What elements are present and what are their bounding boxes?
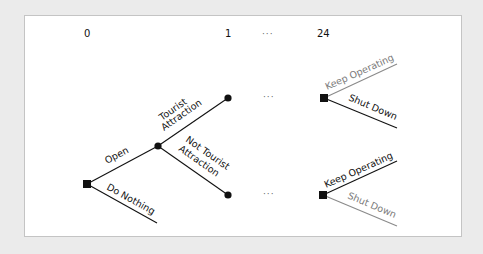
label-lower-keep-operating: Keep Operating bbox=[322, 150, 394, 190]
stage-label-1: 1 bbox=[225, 28, 231, 39]
chance-node-icon bbox=[154, 142, 161, 149]
decision-tree: 0 1 ··· 24 Open Do Nothing Tourist Attra… bbox=[0, 0, 483, 254]
lower-ellipsis: ··· bbox=[263, 189, 275, 199]
stage1-lower-node-icon bbox=[224, 191, 231, 198]
upper-ellipsis: ··· bbox=[263, 92, 275, 102]
stage-label-0: 0 bbox=[84, 28, 90, 39]
root-decision-node-icon bbox=[83, 180, 91, 188]
label-upper-shut-down: Shut Down bbox=[347, 92, 399, 122]
lower-decision-node-icon bbox=[319, 191, 327, 199]
stage-label-24: 24 bbox=[317, 28, 330, 39]
upper-decision-node-icon bbox=[320, 94, 328, 102]
stage1-upper-node-icon bbox=[224, 94, 231, 101]
label-upper-keep-operating: Keep Operating bbox=[323, 52, 395, 92]
stage-ellipsis: ··· bbox=[262, 29, 274, 39]
